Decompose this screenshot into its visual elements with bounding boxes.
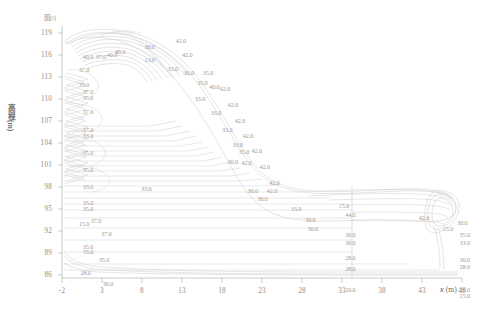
contour-value-label: 30.0	[345, 239, 355, 246]
contour-value-label: 35.0	[99, 256, 109, 263]
contour-value-label: 33.0	[141, 185, 151, 192]
contour-value-label: 33.0	[211, 109, 221, 116]
y-tick-label: 92	[30, 227, 52, 235]
contour-value-label: 30.0	[228, 158, 238, 165]
x-tick-label: 38	[369, 287, 395, 295]
contour-value-label: 33.0	[195, 95, 205, 102]
contour-value-label: 40.0	[209, 83, 219, 90]
contour-value-label: 30.0	[345, 231, 355, 238]
y-tick-label: 119	[30, 29, 52, 37]
contour-value-label: 35.0	[83, 94, 93, 101]
contour-outer-envelope	[66, 29, 456, 221]
contour-value-label: 15.0	[339, 202, 349, 209]
contour-figure: 图(l) 高程(m) x (m)	[0, 0, 488, 309]
x-tick-label: 28	[289, 287, 315, 295]
contour-value-label: 40.0	[83, 53, 93, 60]
contour-value-label: 42.0	[176, 37, 186, 44]
y-tick-label: 98	[30, 183, 52, 191]
contour-value-label: 15.0	[79, 220, 89, 227]
contour-value-label: 30.0	[457, 219, 467, 226]
y-tick-label: 113	[30, 73, 52, 81]
contour-value-label: 35.0	[239, 148, 249, 155]
y-tick-label: 104	[30, 139, 52, 147]
contour-value-label: 30.0	[184, 69, 194, 76]
contour-value-label: 33.0	[222, 126, 232, 133]
contour-value-label: 37.0	[96, 53, 106, 60]
x-tick-label: 13	[169, 287, 195, 295]
contour-value-label: 30.0	[144, 43, 154, 50]
contour-value-label: 42.0	[269, 179, 279, 186]
y-tick-label: 89	[30, 249, 52, 257]
y-tick-label: 107	[30, 117, 52, 125]
contour-value-label: 30.0	[308, 225, 318, 232]
contour-value-label: 37.0	[101, 230, 111, 237]
contour-value-label: 37.0	[83, 108, 93, 115]
contour-value-label: 35.0	[83, 149, 93, 156]
contour-value-label: 42.0	[252, 147, 262, 154]
y-tick-label: 116	[30, 51, 52, 59]
contour-value-label: 35.0	[83, 205, 93, 212]
contour-value-label: 28.0	[460, 263, 470, 270]
contour-value-label: 35.0	[460, 231, 470, 238]
y-axis-ticks	[58, 33, 62, 275]
contour-value-label: 42.0	[241, 159, 251, 166]
contour-value-label: 30.0	[103, 280, 113, 287]
x-tick-label: 18	[209, 287, 235, 295]
contour-value-label: 30.0	[305, 216, 315, 223]
y-tick-label: 95	[30, 205, 52, 213]
contour-value-label: 42.0	[243, 132, 253, 139]
x-axis-ticks	[62, 278, 462, 283]
contour-value-label: 28.0	[345, 254, 355, 261]
contour-mid-bands	[64, 121, 440, 270]
y-tick-label: 110	[30, 95, 52, 103]
contour-value-label: 37.0	[91, 217, 101, 224]
contour-value-label: 28.0	[345, 265, 355, 272]
contour-value-label: 42.0	[235, 117, 245, 124]
contour-value-label: 44.0	[345, 211, 355, 218]
contour-value-label: 40.0	[115, 48, 125, 55]
y-tick-label: 101	[30, 161, 52, 169]
contour-value-label: 20.0	[345, 286, 355, 293]
x-tick-label: 23	[249, 287, 275, 295]
contour-value-label: 33.0	[83, 248, 93, 255]
contour-value-label: 37.0	[79, 66, 89, 73]
contour-value-label: 33.0	[168, 65, 178, 72]
x-tick-label: 43	[409, 287, 435, 295]
contour-value-label: 42.0	[182, 51, 192, 58]
contour-value-label: 30.0	[257, 195, 267, 202]
contour-value-label: 33.0	[83, 183, 93, 190]
contour-outer-envelope-2	[67, 32, 452, 198]
contour-value-label: 28.0	[80, 269, 90, 276]
contour-value-label: 13.0	[144, 56, 154, 63]
contour-value-label: 42.0	[228, 101, 238, 108]
contour-value-label: 15.0	[460, 292, 470, 299]
contour-value-label: 42.0	[419, 214, 429, 221]
contour-value-label: 42.0	[267, 187, 277, 194]
contour-value-label: 33.0	[291, 205, 301, 212]
contour-value-label: 15.0	[443, 225, 453, 232]
x-tick-label: 8	[129, 287, 155, 295]
contour-value-label: 35.0	[203, 69, 213, 76]
contour-value-label: 30.0	[248, 187, 258, 194]
x-tick-label: 3	[89, 287, 115, 295]
contour-value-label: 42.0	[260, 163, 270, 170]
x-tick-label: -2	[49, 287, 75, 295]
contour-value-label: 35.0	[197, 79, 207, 86]
contour-value-label: 30.0	[460, 256, 470, 263]
contour-value-label: 35.0	[83, 166, 93, 173]
contour-base	[64, 252, 458, 275]
contour-value-label: 33.0	[83, 132, 93, 139]
contour-value-label: 33.0	[460, 239, 470, 246]
y-tick-label: 86	[30, 271, 52, 279]
contour-value-label: 42.0	[220, 85, 230, 92]
